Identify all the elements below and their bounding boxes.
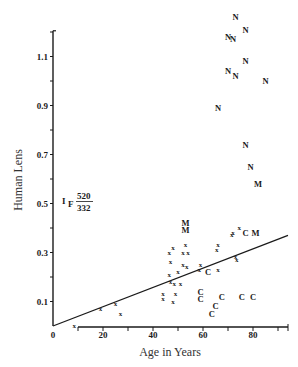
data-point-x: x	[174, 290, 178, 298]
y-tick-label: 0.9	[37, 101, 49, 111]
data-point-x: x	[216, 241, 220, 249]
x-axis-title: Age in Years	[139, 345, 201, 359]
y-tick-label: 0.5	[37, 199, 49, 209]
data-point-C: C	[242, 228, 248, 238]
data-point-M: M	[251, 228, 259, 238]
data-point-x: x	[238, 224, 242, 232]
data-point-x: x	[216, 266, 220, 274]
data-point-N: N	[242, 25, 249, 35]
data-point-N: N	[262, 76, 269, 86]
data-point-x: x	[169, 258, 173, 266]
data-point-x: x	[185, 263, 189, 271]
data-point-x: x	[73, 322, 77, 330]
y-tick-label: 0.7	[37, 150, 49, 160]
data-point-N: N	[242, 56, 249, 66]
annotation-numerator: 520	[77, 191, 91, 201]
y-tick-label: 1.1	[37, 52, 49, 62]
data-point-C: C	[250, 292, 256, 302]
data-point-N: N	[230, 34, 237, 44]
data-point-M: M	[254, 179, 262, 189]
data-point-x: x	[114, 300, 118, 308]
data-point-N: N	[242, 140, 249, 150]
data-point-C: C	[219, 292, 225, 302]
data-point-N: N	[232, 71, 239, 81]
data-point-x: x	[186, 249, 190, 257]
data-point-M: M	[181, 225, 189, 235]
data-point-x: x	[179, 280, 183, 288]
data-point-x: x	[99, 305, 103, 313]
data-point-N: N	[225, 66, 232, 76]
data-point-x: x	[199, 261, 203, 269]
data-point-C: C	[197, 294, 203, 304]
data-point-x: x	[171, 244, 175, 252]
data-point-x: x	[119, 310, 123, 318]
x-tick-label: 40	[149, 330, 159, 340]
x-tick-label: 20	[99, 330, 109, 340]
data-point-x: x	[231, 229, 235, 237]
annotation-subscript: F	[68, 199, 74, 209]
data-point-x: x	[171, 298, 175, 306]
y-tick-label: 0.1	[37, 297, 49, 307]
scatter-chart: 0.10.30.50.70.91.1020406080 xxxxxxxxxxxx…	[0, 0, 298, 367]
annotation-denominator: 332	[77, 203, 91, 213]
y-tick-label: 0.3	[37, 248, 49, 258]
data-point-C: C	[212, 301, 218, 311]
data-point-N: N	[215, 103, 222, 113]
data-point-x: x	[176, 268, 180, 276]
data-point-x: x	[173, 280, 177, 288]
x-tick-label: 0	[51, 330, 56, 340]
data-point-C: C	[205, 267, 211, 277]
x-tick-label: 80	[249, 330, 259, 340]
data-point-x: x	[161, 295, 165, 303]
data-points: xxxxxxxxxxxxxxxxxxxxxxxxxxxxxxxCCCCCCCCC…	[73, 12, 270, 330]
annotation: I F 520 332	[62, 191, 93, 213]
annotation-symbol: I	[62, 196, 66, 206]
data-point-N: N	[247, 162, 254, 172]
y-axis-title: Human Lens	[11, 149, 25, 211]
data-point-C: C	[239, 292, 245, 302]
data-point-N: N	[232, 12, 239, 22]
data-point-x: x	[181, 249, 185, 257]
x-tick-label: 60	[199, 330, 209, 340]
data-point-x: x	[235, 256, 239, 264]
